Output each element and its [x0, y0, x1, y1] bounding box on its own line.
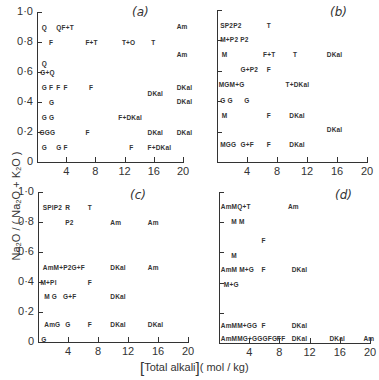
- x-tick-label: 20: [357, 165, 377, 177]
- x-tick-d: [310, 338, 311, 343]
- data-point-label: DKal: [177, 97, 193, 104]
- data-point-label: F: [64, 144, 68, 151]
- y-tick-d: [219, 192, 224, 193]
- x-tick-label: 16: [330, 346, 350, 358]
- y-tick-a: [37, 12, 42, 13]
- data-point-label: AmM+P2G+F: [43, 264, 85, 271]
- y-tick-a: [37, 162, 42, 163]
- y-tick-label: 0·2: [4, 305, 34, 317]
- y-axis-title: Na₂O / ( Na₂O + K₂O ): [10, 126, 22, 286]
- y-tick-b: [217, 10, 222, 11]
- data-point-label: AmMM+GG: [221, 321, 258, 328]
- y-axis-line-a: [37, 12, 38, 162]
- x-tick-label: 8: [267, 165, 287, 177]
- data-point-label: G+F: [63, 292, 76, 299]
- data-point-label: G G: [220, 96, 233, 103]
- data-point-label: GGG: [39, 129, 55, 136]
- y-axis-line-c: [38, 192, 39, 342]
- x-tick-b: [337, 157, 338, 162]
- data-point-label: G: [42, 114, 47, 121]
- y-tick-label: 1·0: [3, 5, 33, 17]
- data-point-label: AmM M+G: [221, 266, 254, 273]
- data-point-label: AmG: [44, 321, 60, 328]
- x-tick-label: 12: [118, 345, 138, 357]
- data-point-label: F: [267, 111, 271, 118]
- data-point-label: G: [42, 84, 47, 91]
- data-point-label: M: [222, 51, 228, 58]
- x-tick-b: [367, 157, 368, 162]
- x-axis-title-main: Total alkali: [144, 361, 195, 373]
- y-tick-b: [217, 132, 222, 133]
- data-point-label: DKal: [110, 264, 126, 271]
- y-tick-c: [38, 192, 43, 193]
- y-tick-d: [219, 343, 224, 344]
- data-point-label: F+T: [85, 39, 97, 46]
- data-point-label: F: [277, 335, 281, 342]
- data-point-label: M: [231, 252, 237, 259]
- data-point-label: F: [88, 279, 92, 286]
- data-point-label: T: [88, 204, 92, 211]
- data-point-label: T+O: [122, 39, 135, 46]
- x-tick-label: 8: [85, 165, 105, 177]
- data-point-label: DKal: [148, 321, 164, 328]
- data-point-label: DKal: [110, 292, 126, 299]
- data-point-label: Am: [363, 335, 374, 342]
- x-tick-label: 16: [144, 165, 164, 177]
- x-tick-label: 12: [115, 165, 135, 177]
- data-point-label: DKal: [177, 129, 193, 136]
- y-tick-a: [37, 42, 42, 43]
- panel-tag-d: (d): [335, 188, 352, 202]
- data-point-label: DKal: [148, 90, 164, 97]
- data-point-label: Q: [42, 60, 47, 67]
- data-point-label: T: [267, 22, 271, 29]
- data-point-label: G: [41, 336, 46, 343]
- y-tick-label: 0·4: [3, 95, 33, 107]
- data-point-label: F: [129, 144, 133, 151]
- x-axis-line-c: [38, 342, 189, 343]
- data-point-label: SPlP2: [43, 204, 62, 211]
- data-point-label: M+G: [224, 281, 239, 288]
- panel-tag-b: (b): [330, 5, 347, 19]
- data-point-label: Am: [148, 264, 159, 271]
- data-point-label: Am: [177, 51, 188, 58]
- data-point-label: F: [49, 39, 53, 46]
- y-tick-d: [219, 313, 224, 314]
- data-point-label: G: [49, 114, 54, 121]
- y-tick-a: [37, 102, 42, 103]
- data-point-label: G: [65, 321, 70, 328]
- x-tick-label: 8: [269, 346, 289, 358]
- x-tick-a: [183, 157, 184, 162]
- x-tick-c: [128, 337, 129, 342]
- data-point-label: G: [49, 99, 54, 106]
- data-point-label: DKal: [110, 321, 126, 328]
- data-point-label: F: [49, 84, 53, 91]
- data-point-label: M G: [44, 292, 57, 299]
- x-tick-b: [247, 157, 248, 162]
- data-point-label: DKal: [292, 321, 308, 328]
- y-tick-label: 0: [4, 335, 34, 347]
- y-tick-d: [219, 252, 224, 253]
- data-point-label: G: [244, 96, 249, 103]
- data-point-label: DKal: [177, 84, 193, 91]
- data-point-label: F+T: [263, 51, 275, 58]
- y-tick-label: 0·6: [3, 65, 33, 77]
- data-point-label: DKal: [327, 125, 343, 132]
- x-tick-a: [125, 157, 126, 162]
- data-point-label: M+P2 P2: [220, 35, 248, 42]
- x-axis-line-b: [217, 162, 368, 163]
- data-point-label: M M: [231, 217, 244, 224]
- x-tick-label: 12: [297, 165, 317, 177]
- data-point-label: F: [262, 266, 266, 273]
- data-point-label: R: [65, 204, 70, 211]
- y-tick-b: [217, 162, 222, 163]
- x-tick-label: 4: [56, 165, 76, 177]
- data-point-label: M: [222, 111, 228, 118]
- data-point-label: F+DKal: [148, 144, 172, 151]
- data-point-label: F: [64, 84, 68, 91]
- x-tick-label: 20: [173, 165, 193, 177]
- data-point-label: F: [88, 321, 92, 328]
- data-point-label: G+F: [241, 140, 254, 147]
- data-point-label: MGG: [220, 140, 236, 147]
- data-point-label: DKal: [292, 266, 308, 273]
- data-point-label: F: [267, 66, 271, 73]
